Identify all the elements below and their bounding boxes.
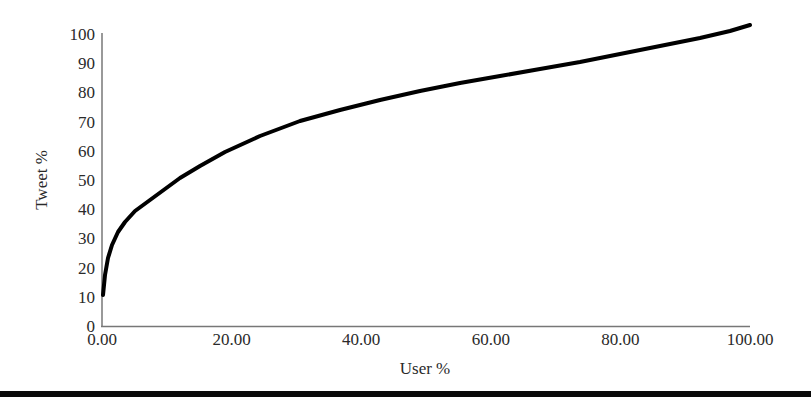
y-tick-label: 90 xyxy=(78,54,95,73)
y-tick-label: 50 xyxy=(78,171,95,190)
y-axis: 0102030405060708090100 xyxy=(70,25,103,336)
x-tick-label: 0.00 xyxy=(87,330,117,349)
y-tick-labels: 0102030405060708090100 xyxy=(70,25,96,336)
y-tick-label: 30 xyxy=(78,229,95,248)
x-axis: 0.0020.0040.0060.0080.00100.00 xyxy=(87,327,773,350)
y-tick-label: 20 xyxy=(78,259,95,278)
y-tick-label: 60 xyxy=(78,142,95,161)
data-line-series xyxy=(103,25,750,295)
line-chart: 0102030405060708090100 0.0020.0040.0060.… xyxy=(0,0,811,409)
y-axis-title: Tweet % xyxy=(32,150,51,210)
x-tick-label: 60.00 xyxy=(472,330,510,349)
x-tick-label: 20.00 xyxy=(212,330,250,349)
bottom-rule-divider xyxy=(0,391,811,397)
x-tick-label: 100.00 xyxy=(727,330,774,349)
y-tick-label: 70 xyxy=(78,113,95,132)
x-tick-labels: 0.0020.0040.0060.0080.00100.00 xyxy=(87,330,773,349)
x-tick-label: 40.00 xyxy=(342,330,380,349)
y-tick-label: 100 xyxy=(70,25,96,44)
y-tick-label: 10 xyxy=(78,288,95,307)
x-axis-title: User % xyxy=(400,359,451,378)
y-tick-label: 80 xyxy=(78,83,95,102)
x-tick-label: 80.00 xyxy=(601,330,639,349)
y-tick-label: 40 xyxy=(78,200,95,219)
